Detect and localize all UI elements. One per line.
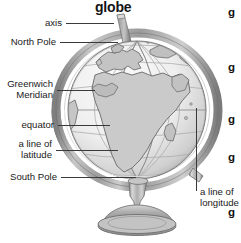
label-latitude-line1: a line of: [0, 138, 52, 150]
stand-collar: [128, 178, 148, 185]
label-equator: equator: [0, 119, 54, 131]
glossary-entry-initial: g: [228, 152, 235, 163]
leader-line-greenwich-meridian: [57, 90, 95, 91]
island-dot: [190, 103, 193, 106]
leader-line-north-pole: [60, 42, 118, 43]
label-greenwich-meridian-line1: Greenwich: [0, 78, 53, 90]
leader-line-south-pole: [61, 177, 136, 178]
leader-line-longitude: [196, 108, 197, 191]
leader-line-axis: [66, 23, 114, 24]
label-south-pole: South Pole: [0, 171, 57, 183]
label-axis: axis: [6, 17, 62, 29]
label-latitude-line2: latitude: [0, 149, 52, 161]
globe-diagram-page: globe axis North Pole Greenwich Meridian…: [0, 0, 241, 243]
leader-line-equator: [58, 125, 110, 126]
island-dot: [184, 116, 187, 119]
figure-title: globe: [95, 0, 131, 15]
glossary-entry-initial: g: [228, 7, 235, 18]
glossary-entry-initial: g: [228, 62, 235, 73]
label-greenwich-meridian-line2: Meridian: [0, 89, 53, 101]
glossary-entry-initial: g: [228, 207, 235, 218]
glossary-entry-initial: g: [228, 114, 235, 125]
leader-line-latitude: [56, 150, 118, 151]
glossary-column: g g g g g: [228, 0, 241, 243]
label-north-pole: North Pole: [0, 36, 56, 48]
